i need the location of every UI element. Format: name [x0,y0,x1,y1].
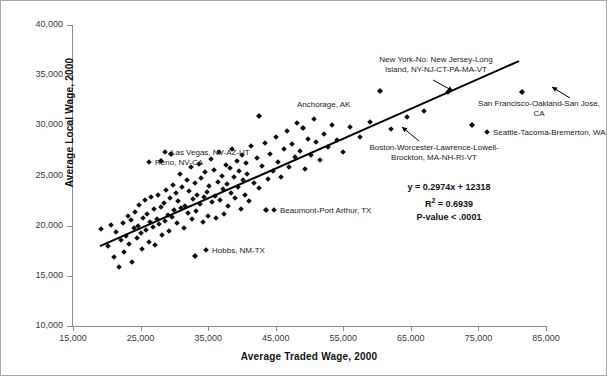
data-point [140,215,146,221]
data-point [161,200,167,206]
y-tick-label: 10,000 [1,321,63,330]
data-point [126,241,132,247]
data-point [388,127,394,133]
data-point [143,227,149,233]
data-point [308,153,314,159]
data-point [99,226,105,232]
data-point [340,150,346,156]
data-point [422,108,428,114]
data-point [146,239,152,245]
data-point [289,142,295,148]
data-point [184,177,190,183]
x-tick-label: 35,000 [178,334,238,343]
y-axis-title: Average Local Wage, 2000 [64,43,75,203]
data-point [170,182,176,188]
x-tick-mark [73,326,74,331]
data-point [276,160,282,166]
data-point [347,124,353,130]
scatter-chart: 10,00015,00020,00025,00030,00035,00040,0… [0,0,607,376]
annotation-text: New York-No. New Jersey-Long [363,55,509,65]
annotation-text: Beaumont-Port Arthur, TX [272,206,390,216]
annotation-beaumont: Beaumont-Port Arthur, TX [272,206,390,216]
data-point-boston [300,125,306,131]
data-point [150,224,156,230]
data-point [286,165,292,171]
data-point [294,120,300,126]
data-point [166,228,172,234]
data-point [122,249,128,255]
data-point [111,254,117,260]
data-point [207,183,213,189]
x-tick-label: 55,000 [313,334,373,343]
data-point [257,185,263,191]
data-point [236,169,242,175]
data-point-new-york [378,88,384,94]
data-point [305,137,311,143]
data-point [158,204,164,210]
data-point [118,237,124,243]
data-point [113,229,119,235]
annotation-seattle: Seattle-Tacoma-Bremerton, WA [485,128,607,138]
annotation-text: CA [471,109,607,119]
data-point [181,225,187,231]
data-point [197,201,203,207]
data-point [189,216,195,222]
y-tick-label-text: 30,000 [7,120,63,129]
data-point [203,170,209,176]
data-point [224,181,230,187]
data-point [178,205,184,211]
data-point [212,193,218,199]
data-point [209,199,215,205]
data-point [200,219,206,225]
data-point [167,195,173,201]
y-tick-label: 30,000 [1,120,63,129]
annotation-marker-icon [162,149,168,155]
data-point [367,119,373,125]
data-point [231,174,237,180]
annotation-text: Anchorage, AK [297,100,371,110]
data-point [520,89,526,95]
data-point [265,176,271,182]
p-value-line: P-value < .0001 [389,211,509,224]
data-point [149,194,155,200]
y-tick-label: 20,000 [1,221,63,230]
annotation-las-vegas: Las Vegas, NV-AZ-UT [163,148,263,158]
data-point [163,187,169,193]
x-tick-mark [478,326,479,331]
data-point [256,113,262,119]
data-point [222,211,228,217]
data-point [177,172,183,178]
data-point [234,159,240,165]
y-tick-label-text: 15,000 [7,271,63,280]
data-point [190,196,196,202]
y-tick-mark [67,25,73,26]
y-tick-label-text: 40,000 [7,20,63,29]
annotation-text: Hobbs, NM-TX [204,246,274,256]
data-point [219,173,225,179]
data-point [445,89,451,95]
data-point [213,215,219,221]
data-point [240,177,246,183]
data-point [311,116,317,122]
data-point [227,166,233,172]
data-point [120,220,126,226]
data-point [270,169,276,175]
data-point [194,192,200,198]
y-tick-label-text: 20,000 [7,221,63,230]
x-tick-mark [546,326,547,331]
data-point [182,203,188,209]
data-point [228,190,234,196]
data-point [151,206,157,212]
annotation-text: Brockton, MA-NH-RI-VT [353,153,515,163]
annotation-reno: Reno, NV-CA [147,158,215,168]
r-squared-value: = 0.6939 [438,199,473,209]
r-squared-exponent: 2 [431,197,435,204]
y-tick-label: 15,000 [1,271,63,280]
data-point [326,145,332,151]
data-point [185,210,191,216]
data-point [144,211,150,217]
data-point [357,135,363,141]
data-point [246,198,252,204]
data-point [303,167,309,173]
data-point [313,140,319,146]
